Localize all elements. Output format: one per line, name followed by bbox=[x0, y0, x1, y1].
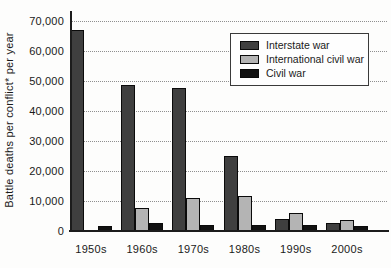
gridline-70000 bbox=[71, 21, 387, 22]
x-tick-label-1950s: 1950s bbox=[65, 243, 117, 255]
bar-international-civil-war-1960s bbox=[135, 208, 149, 231]
bar-chart-figure: Battle deaths per conflict* per year 010… bbox=[0, 0, 391, 268]
bar-international-civil-war-1990s bbox=[289, 213, 303, 231]
legend-item-interstate-war: Interstate war bbox=[240, 40, 362, 51]
y-tick-label: 40,000 bbox=[12, 105, 64, 117]
legend-item-international-civil-war: International civil war bbox=[240, 54, 362, 65]
bar-interstate-war-1980s bbox=[224, 156, 238, 231]
x-tick-label-1980s: 1980s bbox=[219, 243, 271, 255]
legend-label-international-civil-war: International civil war bbox=[266, 54, 364, 65]
legend-swatch-civil-war bbox=[240, 69, 259, 78]
bar-international-civil-war-1970s bbox=[186, 198, 200, 231]
legend-swatch-interstate-war bbox=[240, 41, 259, 50]
bar-interstate-war-1960s bbox=[121, 85, 135, 231]
x-tick-label-1970s: 1970s bbox=[167, 243, 219, 255]
y-tick-label: 70,000 bbox=[12, 15, 64, 27]
y-tick-label: 20,000 bbox=[12, 165, 64, 177]
y-tick-label: 60,000 bbox=[12, 45, 64, 57]
legend-label-civil-war: Civil war bbox=[266, 68, 306, 79]
gridline-30000 bbox=[71, 141, 387, 142]
bar-interstate-war-1950s bbox=[70, 30, 84, 231]
bar-interstate-war-1970s bbox=[172, 88, 186, 231]
x-tick-label-1960s: 1960s bbox=[116, 243, 168, 255]
gridline-40000 bbox=[71, 111, 387, 112]
legend: Interstate war International civil war C… bbox=[230, 33, 369, 86]
x-axis-line bbox=[69, 230, 389, 232]
legend-label-interstate-war: Interstate war bbox=[266, 40, 330, 51]
x-tick-label-2000s: 2000s bbox=[321, 243, 373, 255]
y-tick-label: 10,000 bbox=[12, 195, 64, 207]
bar-international-civil-war-1980s bbox=[238, 196, 252, 231]
y-tick-label: 0 bbox=[12, 225, 64, 237]
x-tick-label-1990s: 1990s bbox=[270, 243, 322, 255]
y-axis-line bbox=[70, 11, 72, 231]
legend-item-civil-war: Civil war bbox=[240, 68, 362, 79]
y-tick-label: 30,000 bbox=[12, 135, 64, 147]
legend-swatch-international-civil-war bbox=[240, 55, 259, 64]
y-tick-label: 50,000 bbox=[12, 75, 64, 87]
